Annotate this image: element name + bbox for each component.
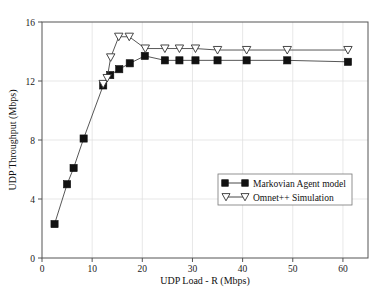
- y-tick-label: 16: [26, 18, 36, 28]
- legend-label: Omnet++ Simulation: [253, 193, 334, 203]
- data-point-square: [70, 164, 77, 171]
- data-point-square: [116, 66, 123, 73]
- x-axis-title: UDP Load - R (Mbps): [160, 275, 250, 287]
- x-tick-label: 40: [238, 264, 248, 274]
- y-axis-title: UDP Throughput (Mbps): [7, 89, 19, 190]
- x-tick-label: 50: [288, 264, 298, 274]
- legend-label: Markovian Agent model: [253, 179, 346, 189]
- data-point-square: [63, 181, 70, 188]
- data-point-square: [80, 135, 87, 142]
- udp-throughput-line-chart: 0102030405060 0481216 UDP Load - R (Mbps…: [0, 0, 390, 301]
- data-point-square: [161, 57, 168, 64]
- data-point-square: [141, 52, 148, 59]
- y-tick-label: 4: [30, 195, 35, 205]
- x-tick-label: 0: [40, 264, 45, 274]
- y-tick-label: 0: [30, 254, 35, 264]
- data-point-square: [344, 58, 351, 65]
- data-point-square: [242, 180, 249, 187]
- x-tick-label: 10: [87, 264, 97, 274]
- y-tick-label: 12: [26, 77, 36, 87]
- data-point-square: [222, 180, 229, 187]
- chart-legend: Markovian Agent modelOmnet++ Simulation: [218, 174, 352, 205]
- data-point-square: [192, 57, 199, 64]
- x-tick-label: 20: [138, 264, 148, 274]
- y-tick-label: 8: [30, 136, 35, 146]
- data-point-square: [243, 57, 250, 64]
- data-point-square: [214, 57, 221, 64]
- x-tick-label: 60: [338, 264, 348, 274]
- data-point-square: [284, 57, 291, 64]
- data-point-square: [176, 57, 183, 64]
- data-point-square: [51, 220, 58, 227]
- x-tick-label: 30: [188, 264, 198, 274]
- chart-container: 0102030405060 0481216 UDP Load - R (Mbps…: [0, 0, 390, 301]
- data-point-square: [126, 60, 133, 67]
